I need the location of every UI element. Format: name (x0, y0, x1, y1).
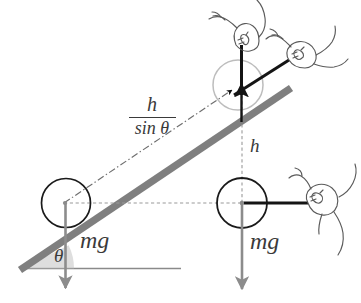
ghost-ball-top (213, 60, 263, 110)
weight-label-left: mg (80, 227, 109, 253)
hand-pulling-horizontally (289, 164, 356, 255)
hand-pulling-along-incline (266, 26, 348, 68)
incline-distance-denominator: sin θ (135, 118, 170, 138)
incline-distance-numerator: h (147, 93, 157, 115)
diagram-canvas: h sin θ h mg mg θ (0, 0, 361, 303)
weight-label-right: mg (250, 228, 279, 254)
incline-distance-label: h sin θ (129, 93, 176, 138)
physics-diagram-figure: h sin θ h mg mg θ (0, 0, 361, 303)
angle-label: θ (54, 245, 63, 266)
height-label: h (250, 135, 260, 156)
hand-pulling-straight-up (209, 0, 265, 51)
